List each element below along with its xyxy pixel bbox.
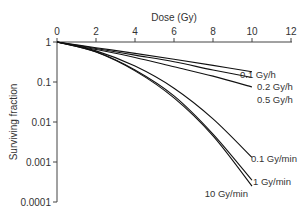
x-axis-title: Dose (Gy) <box>151 12 197 23</box>
x-tick-label: 8 <box>210 26 216 37</box>
curve-0-1-gy-min <box>57 42 252 157</box>
y-tick-label: 0.1 <box>37 77 51 88</box>
y-tick-label: 1 <box>45 37 51 48</box>
curve-label: 10 Gy/min <box>205 188 248 199</box>
x-tick-label: 6 <box>171 26 177 37</box>
curve-1-gy-min <box>57 42 252 180</box>
survival-chart: Dose (Gy) Surviving fraction 02468101210… <box>0 0 304 219</box>
y-tick-label: 0.0001 <box>20 197 51 208</box>
curve-10-gy-min <box>57 42 252 186</box>
curves <box>57 42 252 186</box>
curve-label: 0.1 Gy/min <box>251 153 297 164</box>
x-tick-label: 10 <box>246 26 258 37</box>
curve-label: 0.2 Gy/h <box>257 81 293 92</box>
curve-label: 0.1 Gy/h <box>240 69 276 80</box>
x-tick-label: 2 <box>93 26 99 37</box>
x-tick-label: 4 <box>132 26 138 37</box>
y-axis-title: Surviving fraction <box>8 84 19 161</box>
y-tick-label: 0.01 <box>32 117 52 128</box>
curve-label: 0.5 Gy/h <box>257 94 293 105</box>
y-tick-label: 0.001 <box>26 157 51 168</box>
curve-label: 1 Gy/min <box>253 176 291 187</box>
x-tick-label: 12 <box>285 26 297 37</box>
x-tick-label: 0 <box>54 26 60 37</box>
